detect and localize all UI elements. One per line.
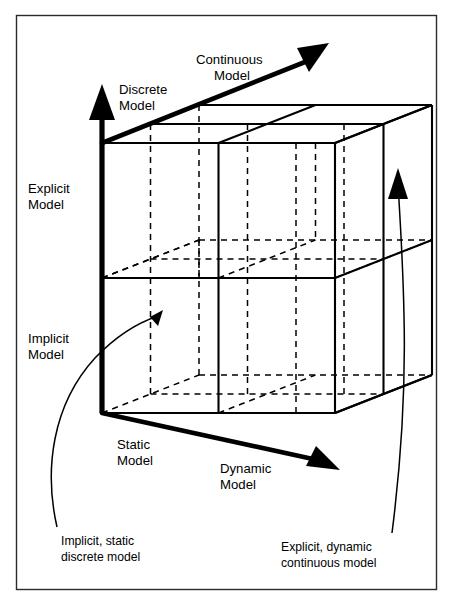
dynamic-model-label-line1: Dynamic	[220, 461, 272, 476]
discrete-model-label-line1: Discrete	[119, 82, 167, 97]
implicit-static-discrete-caption-line2: discrete model	[61, 550, 140, 564]
model-cube-diagram: Continuous Model Discrete Model Explicit…	[0, 0, 453, 606]
implicit-static-discrete-caption-line1: Implicit, static	[61, 534, 134, 548]
static-model-label-line1: Static	[117, 437, 150, 452]
explicit-model-label-line1: Explicit	[28, 181, 70, 196]
explicit-model-label-line2: Model	[28, 197, 64, 212]
figure-border	[17, 16, 437, 590]
explicit-dynamic-continuous-caption-line1: Explicit, dynamic	[281, 540, 372, 554]
continuous-model-label-line2: Model	[214, 68, 250, 83]
implicit-model-label-line1: Implicit	[28, 331, 69, 346]
static-model-label-line2: Model	[117, 453, 153, 468]
figure-root: Continuous Model Discrete Model Explicit…	[0, 0, 453, 606]
continuous-model-label-line1: Continuous	[196, 52, 263, 67]
discrete-model-label-line2: Model	[119, 98, 155, 113]
explicit-dynamic-continuous-caption-line2: continuous model	[281, 556, 377, 570]
implicit-model-label-line2: Model	[28, 347, 64, 362]
dynamic-model-label-line2: Model	[220, 477, 256, 492]
